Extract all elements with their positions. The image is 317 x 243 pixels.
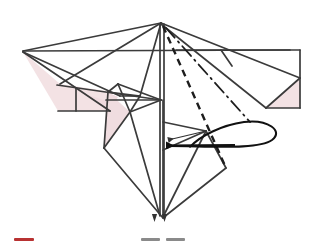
paper-front-faces: [23, 23, 300, 218]
rotation-arrow-shaft: [166, 145, 235, 146]
legend-arrow-glyph: [148, 214, 172, 223]
origami-diagram-page: [0, 0, 317, 243]
legend-strip: [0, 214, 317, 243]
origami-figure: [0, 0, 317, 243]
lower-right-face: [163, 100, 226, 218]
legend-swatch-valley: [14, 238, 34, 241]
legend-swatch-mountain-b: [166, 238, 185, 241]
legend-swatch-mountain-a: [141, 238, 160, 241]
